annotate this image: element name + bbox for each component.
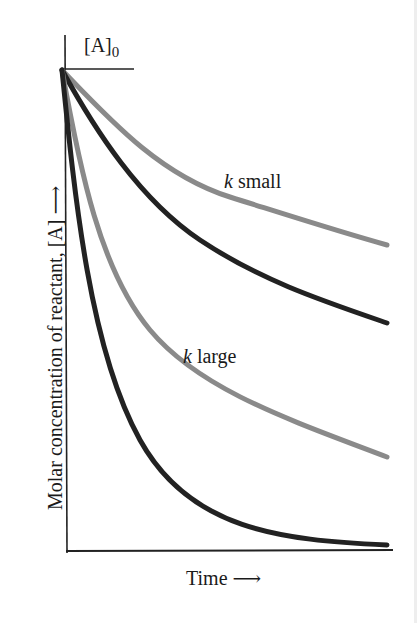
curve-k-large	[62, 70, 387, 457]
k-small-text: small	[233, 170, 281, 192]
y-axis-label: Molar concentration of reactant, [A] ⟶	[43, 186, 67, 510]
initial-label-subscript: 0	[112, 44, 120, 60]
x-axis-label: Time ⟶	[186, 566, 261, 590]
k-small-label: k small	[224, 170, 281, 193]
k-large-symbol: k	[183, 345, 192, 367]
initial-label-main: [A]	[84, 34, 112, 56]
k-small-symbol: k	[224, 170, 233, 192]
k-large-label: k large	[183, 345, 237, 368]
k-large-text: large	[192, 345, 237, 367]
initial-concentration-label: [A]0	[84, 34, 119, 61]
rate-constant-chart: [A]0 k small k large Time ⟶ Molar concen…	[0, 0, 417, 623]
curve-k-small	[62, 70, 387, 245]
x-axis	[66, 550, 393, 551]
